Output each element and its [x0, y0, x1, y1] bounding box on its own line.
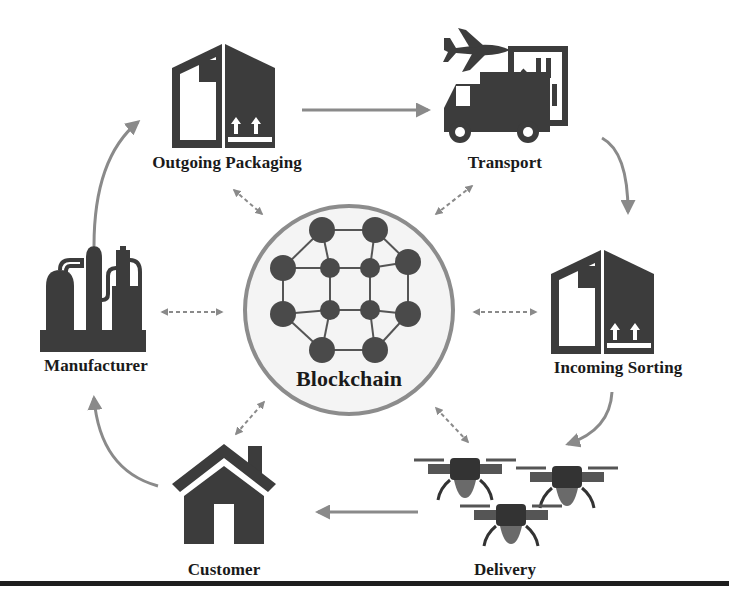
- box-icon: [551, 250, 654, 354]
- plane-icon: [443, 28, 510, 72]
- link-customer: [236, 402, 264, 434]
- arrow-transport-to-sorting: [602, 138, 628, 212]
- label-blockchain: Blockchain: [296, 366, 402, 392]
- box-icon: [172, 44, 275, 148]
- supply-chain-diagram: [0, 0, 729, 609]
- drones-icon: [414, 458, 618, 546]
- factory-icon: [40, 246, 146, 352]
- arrow-manufacturer-to-packaging: [94, 122, 138, 246]
- drone-icon: [516, 466, 618, 508]
- link-delivery: [436, 408, 468, 442]
- drone-icon: [460, 504, 562, 546]
- bottom-rule: [0, 581, 729, 586]
- link-packaging: [234, 190, 262, 214]
- arrow-customer-to-manufacturer: [94, 398, 158, 486]
- house-icon: [172, 444, 276, 544]
- label-transport: Transport: [468, 153, 542, 173]
- label-manufacturer: Manufacturer: [44, 356, 148, 376]
- truck-plane-icon: [443, 28, 568, 143]
- label-outgoing-packaging: Outgoing Packaging: [152, 153, 302, 173]
- link-transport: [436, 186, 472, 214]
- label-delivery: Delivery: [474, 560, 536, 580]
- label-customer: Customer: [188, 560, 261, 580]
- drone-icon: [414, 458, 516, 500]
- label-incoming-sorting: Incoming Sorting: [554, 358, 683, 378]
- arrow-sorting-to-delivery: [568, 392, 612, 444]
- truck-icon: [444, 46, 568, 143]
